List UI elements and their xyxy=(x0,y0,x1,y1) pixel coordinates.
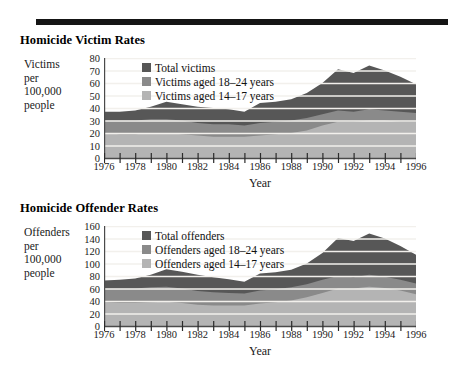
x-axis-tick-label: 1992 xyxy=(343,329,364,340)
top-divider-rule xyxy=(36,19,448,25)
y-axis-tick-label: 70 xyxy=(90,65,101,76)
x-axis-tick-label: 1996 xyxy=(406,161,427,172)
legend-label: Total offenders xyxy=(155,230,225,242)
y-axis-tick-label: 100 xyxy=(84,258,100,269)
chart-panel-victims: Homicide Victim Rates Victims per 100,00… xyxy=(14,28,451,191)
y-axis-tick-label: 80 xyxy=(90,53,101,64)
legend-swatch-icon xyxy=(142,245,151,254)
x-axis-tick-label: 1988 xyxy=(281,161,302,172)
legend-swatch-icon xyxy=(142,259,151,268)
y-axis-tick-label: 30 xyxy=(90,115,101,126)
panel-title-offenders: Homicide Offender Rates xyxy=(20,201,158,216)
legend-item: Offenders aged 18–24 years xyxy=(142,243,284,256)
legend-item: Offenders aged 14–17 years xyxy=(142,257,284,270)
x-axis-tick-label: 1980 xyxy=(156,329,177,340)
x-axis-tick-label: 1988 xyxy=(281,329,302,340)
legend-item: Victims aged 14–17 years xyxy=(142,89,274,102)
legend-swatch-icon xyxy=(142,91,151,100)
y-axis-tick-label: 140 xyxy=(84,233,100,244)
x-tick-labels-offenders: 1976197819801982198419861988199019921994… xyxy=(104,329,416,343)
x-axis-tick-label: 1976 xyxy=(94,161,115,172)
legend-label: Victims aged 18–24 years xyxy=(155,76,274,88)
x-axis-tick-label: 1984 xyxy=(218,329,239,340)
x-tick-labels-victims: 1976197819801982198419861988199019921994… xyxy=(104,161,416,175)
x-axis-tick-label: 1980 xyxy=(156,161,177,172)
y-axis-tick-label: 40 xyxy=(90,103,101,114)
legend-offenders: Total offendersOffenders aged 18–24 year… xyxy=(142,229,284,271)
y-axis-tick-label: 10 xyxy=(90,140,101,151)
y-axis-tick-label: 80 xyxy=(90,271,101,282)
y-axis-tick-label: 60 xyxy=(90,283,101,294)
x-axis-tick-label: 1978 xyxy=(125,161,146,172)
x-axis-tick-label: 1984 xyxy=(218,161,239,172)
x-axis-tick-label: 1994 xyxy=(374,329,395,340)
y-axis-tick-label: 40 xyxy=(90,296,101,307)
x-axis-tick-label: 1990 xyxy=(312,329,333,340)
y-axis-tick-label: 60 xyxy=(90,78,101,89)
x-axis-tick-label: 1986 xyxy=(250,161,271,172)
legend-victims: Total victimsVictims aged 18–24 yearsVic… xyxy=(142,61,274,103)
x-axis-tick-label: 1992 xyxy=(343,161,364,172)
x-axis-tick-label: 1996 xyxy=(406,329,427,340)
x-axis-tick-label: 1982 xyxy=(187,161,208,172)
chart-panel-offenders: Homicide Offender Rates Offenders per 10… xyxy=(14,196,451,358)
x-axis-title-offenders: Year xyxy=(104,344,416,359)
legend-label: Offenders aged 14–17 years xyxy=(155,258,284,270)
legend-label: Offenders aged 18–24 years xyxy=(155,244,284,256)
y-tick-labels-offenders: 020406080100120140160 xyxy=(64,226,100,326)
legend-item: Victims aged 18–24 years xyxy=(142,75,274,88)
y-tick-labels-victims: 01020304050607080 xyxy=(64,58,100,158)
x-axis-tick-label: 1986 xyxy=(250,329,271,340)
y-axis-tick-label: 50 xyxy=(90,90,101,101)
x-axis-tick-label: 1994 xyxy=(374,161,395,172)
y-axis-tick-label: 160 xyxy=(84,221,100,232)
panel-title-victims: Homicide Victim Rates xyxy=(20,33,145,48)
x-axis-tick-label: 1976 xyxy=(94,329,115,340)
legend-item: Total victims xyxy=(142,61,274,74)
legend-swatch-icon xyxy=(142,231,151,240)
legend-swatch-icon xyxy=(142,63,151,72)
x-axis-title-victims: Year xyxy=(104,176,416,191)
legend-swatch-icon xyxy=(142,77,151,86)
legend-label: Victims aged 14–17 years xyxy=(155,90,274,102)
x-axis-tick-label: 1978 xyxy=(125,329,146,340)
figure-root: Homicide Victim Rates Victims per 100,00… xyxy=(0,0,465,383)
legend-item: Total offenders xyxy=(142,229,284,242)
x-axis-tick-label: 1990 xyxy=(312,161,333,172)
y-axis-tick-label: 20 xyxy=(90,308,101,319)
legend-label: Total victims xyxy=(155,62,215,74)
y-axis-tick-label: 120 xyxy=(84,246,100,257)
y-axis-tick-label: 20 xyxy=(90,128,101,139)
x-axis-tick-label: 1982 xyxy=(187,329,208,340)
